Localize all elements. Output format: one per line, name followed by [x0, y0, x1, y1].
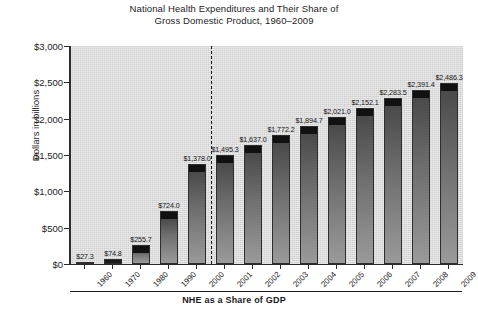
x-axis-line: [69, 264, 463, 265]
bar-value-label-2004: $1,894.7: [287, 116, 331, 125]
bar-2002: [244, 145, 262, 264]
x-axis-tick-mark: [392, 264, 393, 269]
bar-value-label-1990: $724.0: [147, 201, 191, 210]
bar-2003: [272, 135, 290, 264]
bar-2009: [440, 83, 458, 264]
bar-2007: [384, 98, 402, 264]
bar-value-label-2002: $1,637.0: [231, 135, 275, 144]
decade-to-annual-divider: [211, 46, 212, 264]
chart-title-line-1: National Health Expenditures and Their S…: [0, 3, 468, 15]
x-axis-tick-mark: [280, 264, 281, 269]
y-axis-tick-label: $2,000: [0, 113, 70, 124]
bar-2005: [328, 117, 346, 264]
x-axis-tick-mark: [140, 264, 141, 269]
x-axis-tick-mark: [252, 264, 253, 269]
x-axis-tick-mark: [308, 264, 309, 269]
y-axis-tick-label: $2,500: [0, 77, 70, 88]
bar-value-label-2005: $2,021.0: [315, 107, 359, 116]
bar-value-label-2007: $2,283.5: [371, 88, 415, 97]
x-axis-tick-label-2008: 2008: [431, 270, 450, 289]
x-axis-tick-mark: [364, 264, 365, 269]
y-axis-tick-label: $0: [0, 259, 70, 270]
x-axis-tick-label-2000: 2000: [207, 270, 226, 289]
x-axis-tick-label-2001: 2001: [235, 270, 254, 289]
x-axis-tick-label-2009: 2009: [459, 270, 478, 289]
x-axis-tick-mark: [420, 264, 421, 269]
x-axis-tick-mark: [112, 264, 113, 269]
y-axis-tick-label: $1,500: [0, 150, 70, 161]
bar-2004: [300, 126, 318, 264]
x-axis-tick-mark: [448, 264, 449, 269]
bar-value-label-2009: $2,486.3: [427, 73, 471, 82]
x-axis-tick-mark: [224, 264, 225, 269]
bar-1980: [132, 245, 150, 264]
chart-caption: NHE as a Share of GDP: [0, 295, 468, 305]
y-axis-tick-label: $3,000: [0, 41, 70, 52]
x-axis-tick-label-2005: 2005: [347, 270, 366, 289]
x-axis-tick-label-2006: 2006: [375, 270, 394, 289]
bar-2008: [412, 90, 430, 264]
y-axis-label: Dollars in billions: [30, 46, 41, 206]
caption-divider-rule: [70, 291, 462, 292]
x-axis-tick-mark: [336, 264, 337, 269]
bar-value-label-2001: $1,495.3: [203, 145, 247, 154]
x-axis-tick-label-2007: 2007: [403, 270, 422, 289]
bar-value-label-2000: $1,378.0: [175, 154, 219, 163]
bar-value-label-2003: $1,772.2: [259, 125, 303, 134]
x-axis-tick-label-1960: 1960: [95, 270, 114, 289]
y-axis-tick-label: $500: [0, 222, 70, 233]
bar-1990: [160, 211, 178, 264]
bar-2006: [356, 108, 374, 264]
y-axis-tick-mark: [64, 264, 70, 265]
bar-2001: [216, 155, 234, 264]
bar-2000: [188, 164, 206, 264]
x-axis-tick-label-1980: 1980: [151, 270, 170, 289]
x-axis-tick-mark: [196, 264, 197, 269]
bar-1970: [104, 259, 122, 264]
x-axis-tick-mark: [168, 264, 169, 269]
chart-title-line-2: Gross Domestic Product, 1960–2009: [0, 15, 468, 27]
x-axis-tick-mark: [84, 264, 85, 269]
x-axis-tick-label-1970: 1970: [123, 270, 142, 289]
bar-1960: [76, 262, 94, 265]
y-axis-tick-label: $1,000: [0, 186, 70, 197]
chart-title: National Health Expenditures and Their S…: [0, 3, 468, 27]
x-axis-tick-label-2002: 2002: [263, 270, 282, 289]
x-axis-tick-label-2003: 2003: [291, 270, 310, 289]
bar-value-label-2006: $2,152.1: [343, 98, 387, 107]
x-axis-tick-label-1990: 1990: [179, 270, 198, 289]
x-axis-tick-label-2004: 2004: [319, 270, 338, 289]
plot-area: $27.3$74.8$255.7$724.0$1,378.0$1,495.3$1…: [70, 46, 463, 264]
bar-value-label-1980: $255.7: [119, 235, 163, 244]
bar-value-label-1970: $74.8: [91, 249, 135, 258]
